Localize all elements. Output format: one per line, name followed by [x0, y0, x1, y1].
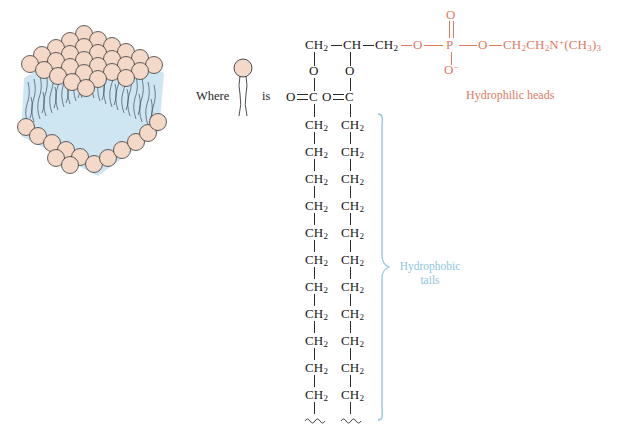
- brace-path: [378, 114, 389, 420]
- hydrophobic-tails-brace: [374, 112, 392, 422]
- tail-2-bond-5: [350, 240, 351, 252]
- tail-1-ch2-6: CH2: [305, 253, 328, 268]
- tail-1-bond-1: [314, 132, 315, 144]
- tail-2-ch2-5: CH2: [341, 226, 364, 241]
- tail-1-bond-11: [314, 402, 315, 414]
- tail-1-bond-4: [314, 213, 315, 225]
- tail-1-ch2-10: CH2: [305, 361, 328, 376]
- tail-2-bond-8: [350, 321, 351, 333]
- tail-2-bond-1: [350, 132, 351, 144]
- tail-2-bond-11: [350, 402, 351, 414]
- tail-2-ch2-3: CH2: [341, 172, 364, 187]
- tail-1-squiggle-terminator: [304, 416, 326, 424]
- tail-2-bond-6: [350, 267, 351, 279]
- tail-2-ch2-6: CH2: [341, 253, 364, 268]
- tail-1-bond-7: [314, 294, 315, 306]
- hydrophobic-tails-line2: tails: [420, 274, 439, 286]
- tail-1-bond-6: [314, 267, 315, 279]
- tail-1-bond-5: [314, 240, 315, 252]
- tail-2-ch2-11: CH2: [341, 388, 364, 403]
- tail-1-ch2-4: CH2: [305, 199, 328, 214]
- tail-2-bond-9: [350, 348, 351, 360]
- tail-1-ch2-2: CH2: [305, 145, 328, 160]
- tail-1-bond-10: [314, 375, 315, 387]
- hydrophobic-tails-label: Hydrophobic tails: [392, 259, 468, 287]
- tail-2-ch2-1: CH2: [341, 118, 364, 133]
- tail-2-bond-4: [350, 213, 351, 225]
- tail-2-ch2-9: CH2: [341, 334, 364, 349]
- tail-1-ch2-7: CH2: [305, 280, 328, 295]
- fatty-acid-tails: CH2CH2CH2CH2CH2CH2CH2CH2CH2CH2CH2CH2CH2C…: [0, 0, 618, 431]
- tail-2-ch2-10: CH2: [341, 361, 364, 376]
- tail-2-squiggle-terminator: [340, 416, 362, 424]
- tail-1-ch2-1: CH2: [305, 118, 328, 133]
- tail-1-bond-8: [314, 321, 315, 333]
- tail-1-bond-2: [314, 159, 315, 171]
- tail-1-ch2-5: CH2: [305, 226, 328, 241]
- tail-2-bond-2: [350, 159, 351, 171]
- bond-carbonyl-to-tail-1: [314, 104, 315, 117]
- tail-1-ch2-8: CH2: [305, 307, 328, 322]
- tail-2-bond-10: [350, 375, 351, 387]
- tail-1-ch2-11: CH2: [305, 388, 328, 403]
- tail-1-bond-3: [314, 186, 315, 198]
- bond-carbonyl-to-tail-2: [350, 104, 351, 117]
- tail-2-ch2-8: CH2: [341, 307, 364, 322]
- tail-1-bond-9: [314, 348, 315, 360]
- tail-2-bond-7: [350, 294, 351, 306]
- tail-1-ch2-3: CH2: [305, 172, 328, 187]
- tail-1-ch2-9: CH2: [305, 334, 328, 349]
- hydrophobic-tails-line1: Hydrophobic: [400, 260, 461, 272]
- figure-canvas: Where is CH2 CH CH2 O O P O− O CH2CH2N+(…: [0, 0, 618, 431]
- tail-2-ch2-4: CH2: [341, 199, 364, 214]
- tail-2-ch2-2: CH2: [341, 145, 364, 160]
- tail-2-bond-3: [350, 186, 351, 198]
- tail-2-ch2-7: CH2: [341, 280, 364, 295]
